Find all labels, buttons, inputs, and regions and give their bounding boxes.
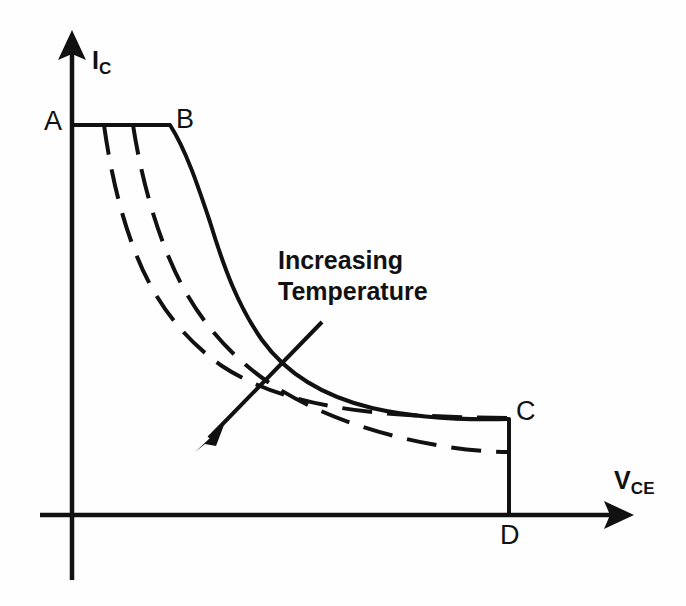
x-axis-label-subscript: CE xyxy=(631,479,655,498)
increasing-temperature-annotation: Increasing Temperature xyxy=(278,245,508,306)
x-axis-label: VCE xyxy=(614,468,655,493)
point-label-b: B xyxy=(176,106,194,133)
point-label-d: D xyxy=(500,522,520,549)
x-axis-label-main: V xyxy=(614,466,631,494)
characteristic-curve-diagram: A B C D IC VCE Increasing Temperature xyxy=(0,0,686,606)
y-axis-label-main: I xyxy=(92,46,99,74)
point-label-a: A xyxy=(44,108,62,135)
point-label-c: C xyxy=(516,398,536,425)
y-axis-label: IC xyxy=(92,48,111,73)
y-axis-label-subscript: C xyxy=(99,59,111,78)
